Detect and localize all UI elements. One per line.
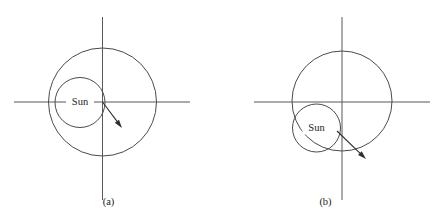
panel-b-drawing: Sun bbox=[217, 0, 434, 223]
panel-b-caption: (b) bbox=[217, 196, 434, 207]
sun-label: Sun bbox=[308, 122, 325, 133]
panel-a-caption: (a) bbox=[0, 196, 217, 207]
panel-a-drawing: Sun bbox=[0, 0, 217, 223]
panel-b: Sun (b) bbox=[217, 0, 434, 223]
radius-arrow-shaft bbox=[103, 102, 119, 123]
sun-label: Sun bbox=[72, 96, 89, 107]
radius-arrow-head bbox=[115, 120, 122, 128]
panel-a: Sun (a) bbox=[0, 0, 217, 223]
figure-container: Sun (a) Sun (b) bbox=[0, 0, 434, 223]
